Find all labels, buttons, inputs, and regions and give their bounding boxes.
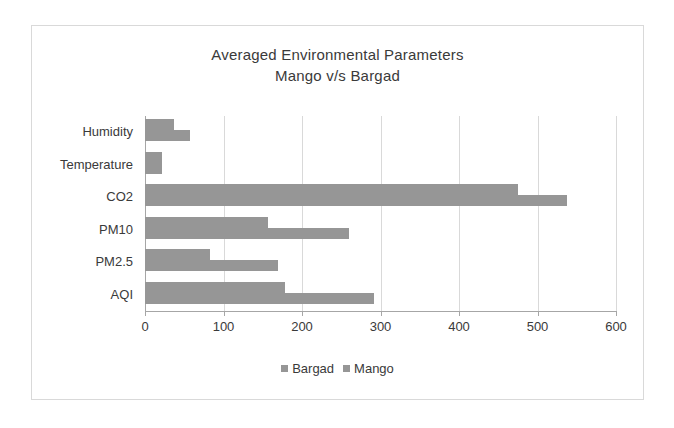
chart-title-line1: Averaged Environmental Parameters [211,46,463,63]
bar-mango-pm10 [145,228,349,239]
gridline [616,116,617,311]
x-axis-tick [145,311,146,316]
chart-title: Averaged Environmental Parameters Mango … [32,44,643,86]
bar-bargad-humidity [145,119,174,130]
bar-bargad-aqi [145,282,285,293]
bar-group [145,149,616,182]
legend-label: Bargad [292,361,334,376]
legend-swatch-icon [281,365,288,372]
chart-frame: Averaged Environmental Parameters Mango … [31,25,644,400]
plot-area [145,116,616,311]
y-axis-label-temperature: Temperature [60,149,133,182]
y-axis-category-labels: HumidityTemperatureCO2PM10PM2.5AQI [32,116,140,311]
x-axis-tick-label: 300 [370,319,392,334]
bar-mango-pm2-5 [145,260,278,271]
bar-bargad-temperature [145,152,162,163]
y-axis-label-pm2-5: PM2.5 [95,246,133,279]
bar-bargad-pm2-5 [145,249,210,260]
bar-group [145,181,616,214]
legend-swatch-icon [343,365,350,372]
x-axis-tick [616,311,617,316]
x-axis-tick [381,311,382,316]
x-axis-tick-label: 400 [448,319,470,334]
bar-mango-humidity [145,130,190,141]
x-axis-tick-labels: 0100200300400500600 [145,319,616,339]
bar-group [145,279,616,312]
bar-bargad-pm10 [145,217,268,228]
x-axis-tick-label: 600 [605,319,627,334]
legend-item-bargad[interactable]: Bargad [281,361,334,376]
y-axis-label-pm10: PM10 [99,214,133,247]
x-axis-tick [224,311,225,316]
bar-mango-temperature [145,163,162,174]
x-axis-tick-label: 500 [527,319,549,334]
y-axis-label-co2: CO2 [106,181,133,214]
y-axis-label-aqi: AQI [111,279,133,312]
bar-group [145,246,616,279]
x-axis-tick-label: 0 [141,319,148,334]
x-axis-tick-label: 200 [291,319,313,334]
x-axis-tick-label: 100 [213,319,235,334]
chart-subtitle: Mango v/s Bargad [32,65,643,86]
bar-bargad-co2 [145,184,518,195]
bar-mango-co2 [145,195,567,206]
legend-item-mango[interactable]: Mango [343,361,394,376]
x-axis-tick [459,311,460,316]
x-axis-tick [538,311,539,316]
x-axis-tick [302,311,303,316]
bar-group [145,116,616,149]
chart-legend: BargadMango [32,361,643,376]
x-axis-ticks [145,311,616,317]
y-axis-label-humidity: Humidity [82,116,133,149]
legend-label: Mango [354,361,394,376]
bar-mango-aqi [145,293,374,304]
bar-group [145,214,616,247]
